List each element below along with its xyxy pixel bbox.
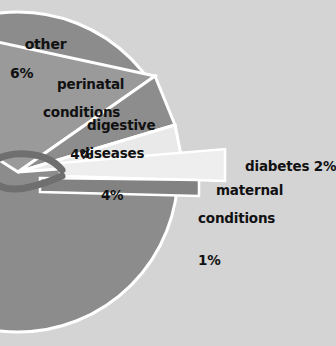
slice-label-digestive-line2: diseases <box>69 146 155 160</box>
slice-label-digestive: digestive diseases 4% <box>69 104 155 230</box>
slice-label-maternal: maternal conditions 1% <box>198 169 283 295</box>
slice-label-digestive-percent: 4% <box>69 188 155 202</box>
slice-label-other-name: other <box>25 36 67 52</box>
slice-label-maternal-line2: conditions <box>198 211 283 225</box>
slice-label-digestive-line1: digestive <box>87 117 155 133</box>
slice-label-maternal-percent: 1% <box>198 253 283 267</box>
slice-label-maternal-line1: maternal <box>216 182 283 198</box>
slice-label-perinatal-line1: perinatal <box>57 76 124 92</box>
